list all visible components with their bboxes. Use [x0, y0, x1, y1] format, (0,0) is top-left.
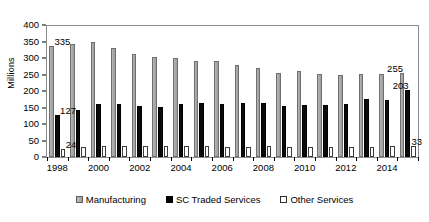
bar-other-services-1998 [61, 149, 66, 157]
bar-other-services-2011 [329, 147, 334, 157]
x-axis-label-2008: 2008 [253, 163, 274, 173]
bar-manufacturing-2001 [111, 48, 116, 157]
x-tick-mark [47, 157, 48, 161]
sc-traded-services-swatch [166, 196, 173, 203]
y-axis-tick-150: 150 [23, 103, 39, 113]
bar-manufacturing-2005 [194, 61, 199, 157]
bar-sc-traded-services-2014 [385, 100, 390, 157]
bar-group-2014 [377, 25, 398, 157]
bar-sc-traded-services-2010 [302, 105, 307, 157]
bar-sc-traded-services-2011 [323, 105, 328, 157]
bar-other-services-2002 [143, 146, 148, 157]
bar-other-services-1999 [81, 147, 86, 157]
x-tick-mark [129, 157, 130, 161]
legend-label: Manufacturing [86, 195, 146, 205]
bar-manufacturing-2009 [276, 73, 281, 157]
bar-manufacturing-2011 [317, 74, 322, 157]
bar-group-2000 [88, 25, 109, 157]
x-axis-tick-labels: 199820002002200420062008201020122014 [47, 163, 418, 177]
bar-group-2010 [294, 25, 315, 157]
data-label-sc-traded-services-1998: 127 [60, 106, 76, 116]
bar-sc-traded-services-1999 [76, 110, 81, 157]
bar-other-services-2009 [287, 147, 292, 157]
x-tick-mark [377, 157, 378, 161]
bar-manufacturing-2014 [379, 74, 384, 157]
x-tick-mark [109, 157, 110, 161]
x-tick-mark [418, 157, 419, 161]
bar-manufacturing-2007 [235, 65, 240, 157]
x-axis-label-2002: 2002 [129, 163, 150, 173]
legend-item-other-services[interactable]: Other Services [280, 195, 353, 205]
bar-group-2011 [315, 25, 336, 157]
bar-other-services-2006 [225, 147, 230, 157]
x-tick-mark [212, 157, 213, 161]
bar-manufacturing-2004 [173, 58, 178, 157]
x-tick-mark [150, 157, 151, 161]
x-tick-mark [68, 157, 69, 161]
bar-other-services-2005 [205, 146, 210, 157]
bar-manufacturing-1998 [49, 46, 54, 157]
x-axis-label-2012: 2012 [335, 163, 356, 173]
bar-group-2001 [109, 25, 130, 157]
x-tick-mark [397, 157, 398, 161]
y-axis-tick-250: 250 [23, 70, 39, 80]
bar-other-services-2008 [267, 146, 272, 157]
data-label-manufacturing-2015: 255 [387, 64, 403, 74]
bar-manufacturing-2000 [91, 42, 96, 157]
x-axis-label-2006: 2006 [212, 163, 233, 173]
bar-manufacturing-2006 [214, 61, 219, 157]
bar-sc-traded-services-2002 [137, 106, 142, 157]
bar-sc-traded-services-2008 [261, 103, 266, 157]
bar-manufacturing-2010 [297, 71, 302, 157]
bar-sc-traded-services-2006 [220, 104, 225, 157]
legend-item-sc-traded-services[interactable]: SC Traded Services [166, 195, 260, 205]
x-tick-mark [233, 157, 234, 161]
y-axis-tick-400: 400 [23, 20, 39, 30]
bar-manufacturing-2003 [152, 57, 157, 157]
bar-sc-traded-services-1998 [55, 115, 60, 157]
bar-sc-traded-services-2004 [179, 104, 184, 157]
x-tick-mark [356, 157, 357, 161]
data-label-sc-traded-services-2015: 203 [393, 81, 409, 91]
x-tick-mark [171, 157, 172, 161]
bar-chart: Millions 050100150200250300350400 335127… [0, 0, 429, 222]
bar-group-2003 [150, 25, 171, 157]
data-label-other-services-2015: 33 [411, 137, 422, 147]
y-axis-tick-300: 300 [23, 53, 39, 63]
x-tick-mark [336, 157, 337, 161]
bar-group-2012 [336, 25, 357, 157]
bar-group-2006 [212, 25, 233, 157]
bar-group-2013 [356, 25, 377, 157]
bar-other-services-2015 [411, 146, 416, 157]
bar-group-2002 [129, 25, 150, 157]
y-axis-tick-200: 200 [23, 86, 39, 96]
manufacturing-swatch [76, 196, 83, 203]
legend-item-manufacturing[interactable]: Manufacturing [76, 195, 146, 205]
x-tick-mark [191, 157, 192, 161]
data-label-manufacturing-1998: 335 [55, 37, 71, 47]
bar-group-2005 [191, 25, 212, 157]
y-axis-tick-labels: 050100150200250300350400 [0, 25, 46, 158]
bar-sc-traded-services-2015 [405, 90, 410, 157]
other-services-swatch [280, 196, 287, 203]
x-tick-mark [253, 157, 254, 161]
bar-group-2004 [171, 25, 192, 157]
x-axis-label-2014: 2014 [377, 163, 398, 173]
bar-manufacturing-2008 [256, 68, 261, 157]
y-axis-tick-350: 350 [23, 37, 39, 47]
bar-other-services-2003 [164, 146, 169, 157]
bar-other-services-2014 [390, 146, 395, 157]
bar-sc-traded-services-2001 [117, 104, 122, 157]
x-tick-mark [274, 157, 275, 161]
bar-sc-traded-services-2009 [282, 106, 287, 157]
y-axis-tick-0: 0 [34, 152, 39, 162]
data-label-other-services-1998: 24 [66, 140, 77, 150]
x-axis-label-2000: 2000 [88, 163, 109, 173]
x-axis-label-2010: 2010 [294, 163, 315, 173]
bar-group-1999 [68, 25, 89, 157]
bar-sc-traded-services-2005 [199, 103, 204, 157]
bar-manufacturing-2002 [132, 54, 137, 157]
bar-sc-traded-services-2007 [241, 103, 246, 157]
bar-other-services-2004 [184, 146, 189, 157]
bar-other-services-2013 [370, 147, 375, 157]
